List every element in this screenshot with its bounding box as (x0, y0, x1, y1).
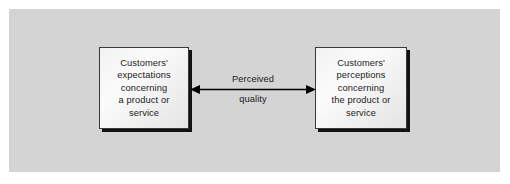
double-headed-arrow-icon (189, 62, 317, 118)
concept-box-perceptions-label: Customers' perceptions concerning the pr… (332, 57, 391, 120)
relation-label-line2: quality (189, 93, 317, 105)
relation-connector: Perceived quality (189, 62, 317, 118)
concept-box-perceptions: Customers' perceptions concerning the pr… (315, 47, 407, 129)
concept-box-expectations: Customers' expectations concerning a pro… (99, 47, 189, 129)
figure-container: Customers' expectations concerning a pro… (0, 0, 510, 184)
concept-box-expectations-label: Customers' expectations concerning a pro… (117, 57, 170, 120)
relation-label-line1: Perceived (189, 73, 317, 85)
